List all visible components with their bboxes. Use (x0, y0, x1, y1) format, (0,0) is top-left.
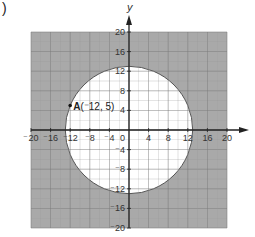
x-tick-label: 12 (183, 133, 193, 143)
origin-label: 0 (120, 133, 125, 143)
y-axis-arrow-icon (126, 15, 132, 25)
y-tick-label: 20 (115, 27, 125, 37)
x-tick-label: 8 (166, 133, 171, 143)
y-tick-label: 8 (120, 86, 125, 96)
coordinate-figure: ) y0⁻20⁻16⁻12⁻8⁻44812162020161284⁻4⁻8⁻12… (0, 0, 255, 237)
x-tick-label: 4 (146, 133, 151, 143)
x-axis-arrow-icon (239, 127, 249, 133)
x-tick-label: ⁻4 (104, 133, 114, 143)
y-tick-label: ⁻4 (115, 145, 125, 155)
point-a-marker (68, 104, 72, 108)
x-tick-label: ⁻12 (63, 133, 78, 143)
x-tick-label: ⁻20 (23, 133, 38, 143)
point-a-label: A(⁻12, 5) (73, 101, 114, 112)
y-tick-label: ⁻8 (115, 164, 125, 174)
x-tick-label: 16 (202, 133, 212, 143)
y-tick-label: ⁻20 (110, 223, 125, 233)
x-tick-label: 20 (222, 133, 232, 143)
part-marker: ) (2, 0, 7, 16)
x-tick-label: ⁻16 (43, 133, 58, 143)
x-tick-label: ⁻8 (85, 133, 95, 143)
coordinate-plane: y0⁻20⁻16⁻12⁻8⁻44812162020161284⁻4⁻8⁻12⁻1… (0, 0, 255, 237)
y-tick-label: ⁻16 (110, 203, 125, 213)
y-tick-label: 4 (120, 105, 125, 115)
y-tick-label: ⁻12 (110, 184, 125, 194)
y-tick-label: 12 (115, 66, 125, 76)
y-tick-label: 16 (115, 47, 125, 57)
y-axis-label: y (126, 1, 134, 13)
